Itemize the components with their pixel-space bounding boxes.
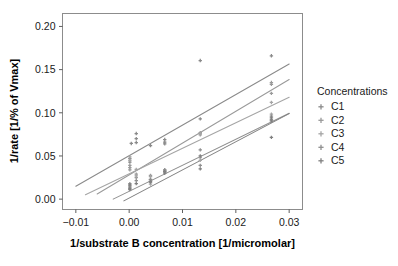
legend-item-label: C4 [331, 141, 345, 153]
legend-item-label: C1 [331, 100, 345, 112]
y-tick-label: 0.05 [35, 150, 56, 162]
y-axis-title: 1/rate [1/% of Vmax] [8, 58, 20, 163]
x-tick-label: 0.00 [119, 216, 140, 228]
legend-title: Concentrations [317, 85, 388, 97]
plot-svg: 0.000.050.100.150.20 −0.010.000.010.020.… [0, 0, 398, 266]
legend-item-label: C2 [331, 114, 345, 126]
y-tick-label: 0.20 [35, 20, 56, 32]
legend-item-label: C5 [331, 154, 345, 166]
y-tick-label: 0.00 [35, 193, 56, 205]
x-tick-label: 0.03 [279, 216, 300, 228]
x-tick-label: 0.02 [226, 216, 247, 228]
lineweaver-burk-plot-figure: 0.000.050.100.150.20 −0.010.000.010.020.… [0, 0, 398, 266]
x-tick-label: 0.01 [172, 216, 193, 228]
legend-item-label: C3 [331, 127, 345, 139]
y-tick-label: 0.15 [35, 63, 56, 75]
x-axis-title: 1/substrate B concentration [1/micromola… [70, 237, 295, 249]
x-tick-label: −0.01 [63, 216, 90, 228]
y-tick-label: 0.10 [35, 107, 56, 119]
